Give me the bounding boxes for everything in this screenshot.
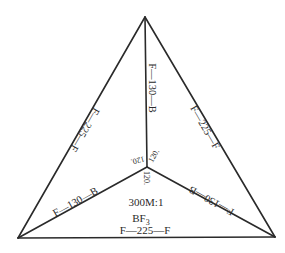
- label-bond-right: F—130—B: [187, 184, 236, 218]
- angle-bottom: 120.: [142, 171, 151, 185]
- formula-main: BF: [132, 212, 145, 224]
- bond-top: [145, 17, 147, 167]
- label-bond-left: F—130—B: [51, 185, 100, 219]
- angle-left: 120.: [130, 154, 146, 166]
- label-bond-top: F—130—B: [147, 63, 158, 113]
- label-left-side: F—225—F: [68, 106, 102, 154]
- label-bottom-side: F—225—F: [120, 224, 171, 236]
- label-right-side: F—225—F: [188, 104, 222, 152]
- angle-right: 120.: [146, 147, 161, 164]
- scale-label: 300M:1: [129, 196, 164, 208]
- edge-bottom: [18, 237, 275, 238]
- bf3-diagram: F—225—F F—225—F F—130—B F—130—B F—130—B …: [0, 0, 285, 253]
